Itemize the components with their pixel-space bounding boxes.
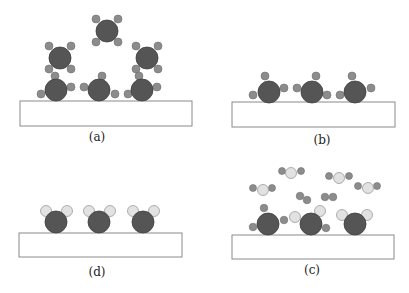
panel-c: (c): [232, 168, 394, 278]
panel-label-c: (c): [304, 263, 320, 277]
terminated-atom: [337, 210, 373, 236]
coreactant-molecule: [250, 185, 276, 196]
panel-b: (b): [232, 72, 395, 147]
terminated-atom: [41, 206, 73, 234]
coreactant-molecule: [279, 168, 305, 179]
panel-label-d: (d): [88, 265, 105, 279]
gas-molecule: [132, 42, 162, 73]
panel-a: (a): [20, 15, 192, 144]
panel-label-a: (a): [89, 130, 106, 144]
partially-exchanged-atom: [290, 206, 330, 236]
gas-molecule: [92, 15, 122, 46]
substrate-a: [20, 101, 192, 126]
terminated-atom: [84, 206, 116, 234]
coreactant-molecule: [355, 183, 381, 194]
byproduct-molecule: [321, 193, 337, 201]
adsorbed-molecule: [249, 72, 288, 103]
coreactant-molecule: [326, 173, 353, 184]
adsorbed-molecule: [249, 204, 288, 235]
adsorbed-molecule: [124, 72, 161, 101]
substrate-b: [232, 102, 395, 127]
terminated-atom: [128, 206, 160, 234]
panel-d: (d): [19, 206, 182, 280]
adsorbed-molecule: [336, 72, 375, 103]
byproduct-molecule: [296, 192, 311, 204]
substrate-d: [19, 233, 182, 257]
adsorbed-molecule: [37, 72, 75, 101]
gas-molecule: [45, 42, 75, 73]
substrate-c: [232, 235, 394, 259]
ald-cycle-diagram: (a) (b) (d): [0, 0, 409, 293]
adsorbed-molecule: [80, 72, 119, 101]
adsorbed-molecule: [293, 72, 331, 103]
panel-label-b: (b): [313, 133, 330, 147]
